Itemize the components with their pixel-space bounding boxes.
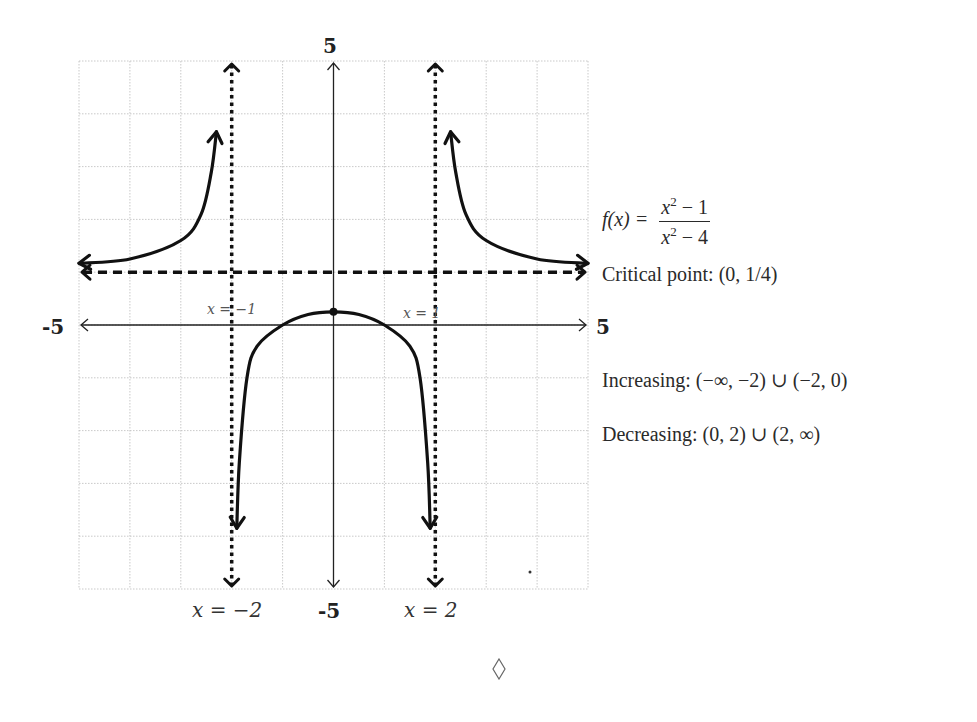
x-axis-min-label: -5	[42, 317, 64, 337]
asymptote-label-right: x = 2	[404, 600, 457, 620]
asymptote-label-left: x = −2	[192, 600, 262, 620]
y-axis-max-label: 5	[323, 36, 337, 56]
function-prefix: f(x) =	[602, 208, 648, 230]
function-fraction: x2 − 1 x2 − 4	[659, 194, 710, 249]
critical-point-marker	[330, 308, 338, 316]
critical-point-text: Critical point: (0, 1/4)	[602, 263, 778, 286]
function-graph	[0, 0, 977, 722]
numerator: x2 − 1	[659, 194, 710, 222]
diamond-symbol	[492, 658, 506, 680]
decreasing-intervals: Decreasing: (0, 2) ∪ (2, ∞)	[602, 422, 820, 446]
x-axis-max-label: 5	[596, 317, 610, 337]
function-definition: f(x) = x2 − 1 x2 − 4	[602, 194, 710, 249]
increasing-intervals: Increasing: (−∞, −2) ∪ (−2, 0)	[602, 368, 847, 392]
y-axis-min-label: -5	[318, 601, 340, 621]
stray-dot	[529, 571, 532, 574]
axes	[81, 63, 586, 587]
denominator: x2 − 4	[661, 222, 708, 249]
x-intercept-label-left: x = −1	[207, 302, 256, 316]
x-intercept-label-right: x = 1	[403, 306, 440, 320]
